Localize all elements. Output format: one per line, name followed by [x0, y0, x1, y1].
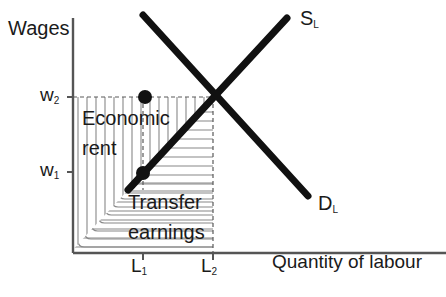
subscript: 2 [212, 266, 218, 277]
transfer-earnings-label-line2: earnings [128, 222, 205, 242]
diagram-canvas: Wages Quantity of labour w2 w1 L1 L2 SL … [0, 0, 446, 297]
x-axis-label: Quantity of labour [272, 252, 422, 271]
subscript: 1 [142, 266, 148, 277]
x-tick-label-L1: L1 [131, 256, 147, 275]
y-tick-label-w2: w2 [40, 85, 59, 104]
transfer-earnings-label-line1: Transfer [128, 192, 202, 212]
subscript: 2 [54, 95, 60, 106]
supply-curve-label: SL [300, 8, 319, 28]
x-tick-label-L2: L2 [201, 256, 217, 275]
y-tick-label-w1: w1 [40, 160, 59, 179]
subscript: 1 [54, 170, 60, 181]
curve-lines [128, 15, 308, 196]
demand-curve-label: DL [318, 193, 338, 213]
economic-rent-label-line2: rent [82, 138, 116, 158]
y-axis-label: Wages [8, 18, 70, 38]
subscript: L [332, 204, 338, 215]
subscript: L [313, 19, 319, 30]
economic-rent-label-line1: Economic [82, 108, 170, 128]
